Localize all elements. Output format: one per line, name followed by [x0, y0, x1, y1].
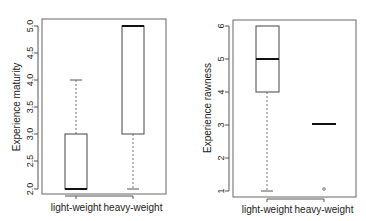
y-axis — [225, 26, 229, 191]
x-tick-label-heavy-weight: heavy-weight — [104, 202, 163, 213]
y-tick-label: 2.5 — [25, 155, 35, 168]
box-heavy-weight — [312, 124, 336, 190]
plot-frame — [233, 20, 356, 197]
y-tick-label: 5 — [216, 56, 226, 61]
plot-experience-rawness: 6 5 4 3 2 1 Experience rawness light-wei… — [202, 20, 356, 215]
x-axis — [267, 199, 324, 202]
y-axis-label: Experience rawness — [202, 63, 213, 153]
y-tick-label: 4.0 — [25, 74, 35, 87]
y-tick-label: 6 — [216, 23, 226, 28]
x-tick-label-heavy-weight: heavy-weight — [295, 204, 354, 215]
y-tick-label: 3.5 — [25, 101, 35, 114]
y-axis-label: Experience maturity — [11, 63, 22, 151]
x-tick-label-light-weight: light-weight — [51, 202, 102, 213]
y-tick-label: 3 — [216, 122, 226, 127]
box-light-weight — [65, 80, 87, 189]
y-tick-label: 2 — [216, 155, 226, 160]
y-tick-label: 5.0 — [25, 20, 35, 33]
outlier-point — [323, 188, 326, 191]
y-tick-label: 2.0 — [25, 183, 35, 196]
y-tick-label: 4.5 — [25, 47, 35, 60]
box-light-weight — [256, 26, 279, 191]
y-tick-label: 4 — [216, 89, 226, 94]
figure: 5.0 4.5 4.0 3.5 3.0 2.5 2.0 Experience m… — [0, 0, 366, 221]
x-tick-label-light-weight: light-weight — [242, 204, 293, 215]
y-tick-label: 3.0 — [25, 128, 35, 141]
x-axis — [65, 196, 133, 199]
box-heavy-weight — [122, 26, 144, 189]
plot-frame — [42, 19, 166, 194]
plot-experience-maturity: 5.0 4.5 4.0 3.5 3.0 2.5 2.0 Experience m… — [11, 19, 166, 213]
y-tick-label: 1 — [216, 188, 226, 193]
